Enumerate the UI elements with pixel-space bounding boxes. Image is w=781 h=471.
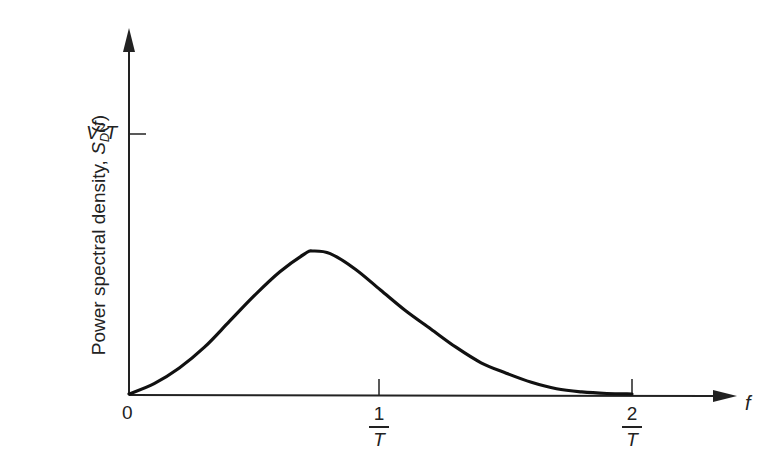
fraction-denominator: T xyxy=(373,430,385,450)
x-tick-label-2-over-t: 2 T xyxy=(622,404,642,450)
fraction-denominator: T xyxy=(626,430,638,450)
fraction-numerator: 1 xyxy=(374,404,385,424)
x-tick-label-0: 0 xyxy=(122,402,133,424)
y-tick-label-v2t: V2T xyxy=(86,121,117,144)
x-axis-label: f xyxy=(745,392,751,415)
chart-plot-area xyxy=(0,0,781,471)
y-axis-label-text: Power spectral density, xyxy=(88,155,109,355)
fraction-bar xyxy=(369,426,389,428)
x-axis-arrow-icon xyxy=(713,390,737,402)
y-axis-arrow-icon xyxy=(123,28,135,52)
x-tick-label-1-over-t: 1 T xyxy=(369,404,389,450)
fraction-bar xyxy=(622,426,642,428)
fraction-numerator: 2 xyxy=(627,404,638,424)
psd-curve xyxy=(129,251,632,394)
y-axis-label: Power spectral density, SD(f) xyxy=(88,115,113,355)
